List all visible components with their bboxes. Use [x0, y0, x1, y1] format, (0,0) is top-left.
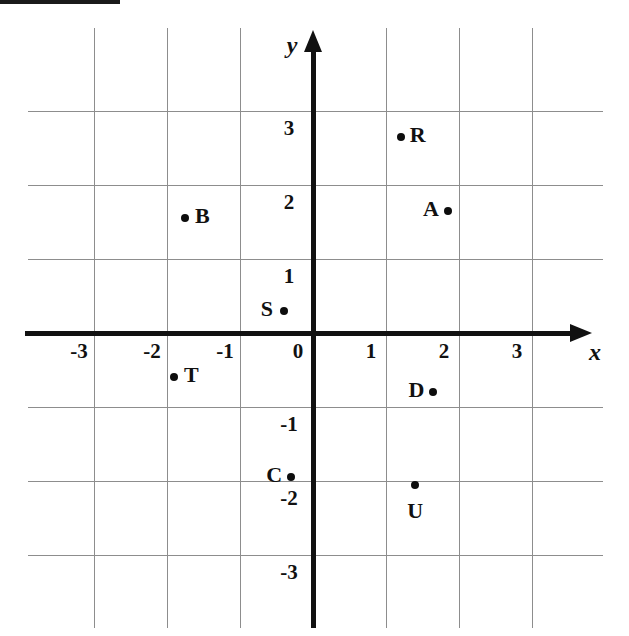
x-tick-label: -1: [216, 341, 234, 362]
plotted-point-dot: [411, 481, 419, 489]
x-tick-label: 3: [512, 341, 523, 362]
grid-line-vertical: [459, 28, 460, 628]
grid-line-vertical: [240, 28, 241, 628]
plotted-point-label: S: [261, 298, 273, 320]
y-tick-label: -1: [280, 414, 298, 435]
x-axis-label: x: [589, 340, 601, 364]
x-tick-label: -2: [143, 341, 161, 362]
x-tick-label: 1: [366, 341, 377, 362]
plotted-point-label: U: [407, 500, 423, 522]
plotted-point-dot: [444, 207, 452, 215]
plotted-point-label: R: [410, 124, 426, 146]
coordinate-plane-figure: -3-2-10123-3-2-1123 RABSTDCU x y: [0, 0, 629, 636]
plotted-point-label: A: [423, 198, 439, 220]
x-axis-line: [25, 331, 573, 336]
plotted-point-label: D: [408, 379, 424, 401]
plotted-point-label: B: [195, 205, 210, 227]
y-axis-line: [311, 50, 316, 628]
grid-line-vertical: [386, 28, 387, 628]
top-rule-decoration: [0, 0, 120, 4]
y-axis-arrow-icon: [304, 30, 322, 52]
plotted-point-dot: [170, 373, 178, 381]
y-axis-label: y: [287, 33, 298, 57]
grid-line-vertical: [532, 28, 533, 628]
x-tick-label: -3: [70, 341, 88, 362]
plotted-point-label: C: [266, 464, 282, 486]
y-tick-label: -3: [280, 562, 298, 583]
plotted-point-dot: [397, 133, 405, 141]
grid-line-vertical: [167, 28, 168, 628]
y-tick-label: 3: [284, 118, 295, 139]
y-tick-label: 2: [284, 192, 295, 213]
x-tick-label: 0: [293, 341, 304, 362]
grid-line-vertical: [94, 28, 95, 628]
y-tick-label: -2: [280, 488, 298, 509]
y-tick-label: 1: [284, 266, 295, 287]
plotted-point-dot: [181, 214, 189, 222]
plotted-point-dot: [287, 473, 295, 481]
plotted-point-label: T: [184, 364, 199, 386]
plotted-point-dot: [280, 307, 288, 315]
x-tick-label: 2: [439, 341, 450, 362]
plotted-point-dot: [429, 388, 437, 396]
